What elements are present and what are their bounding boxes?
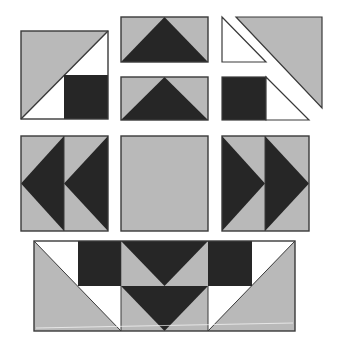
flying-goose-upper (121, 17, 208, 62)
center-square (121, 136, 208, 231)
quilt-diagram: .L { fill: #b9b9b9; } .D { fill: #262626… (0, 0, 339, 346)
geese-pair-right (222, 136, 309, 231)
bottom-border-strip (34, 241, 295, 331)
flying-goose-lower (121, 77, 208, 120)
corner-pieces-top-right (222, 17, 322, 120)
geese-pair-left (21, 136, 108, 231)
corner-unit-top-left (21, 31, 108, 119)
